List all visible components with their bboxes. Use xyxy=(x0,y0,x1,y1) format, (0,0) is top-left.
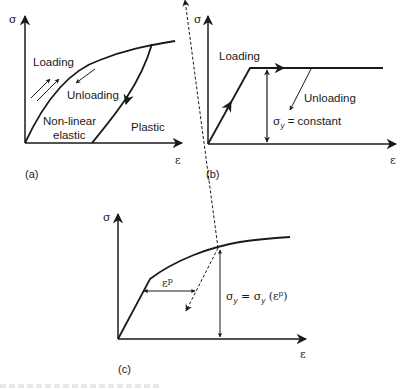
yield-constant-label: σy = constant xyxy=(273,115,342,130)
y-axis-label: σ xyxy=(103,211,111,224)
loading-arrow-2 xyxy=(37,79,59,101)
truncated-caption-strip xyxy=(0,384,160,388)
dashed-unloading-arrow xyxy=(185,0,218,248)
elastic-label: elastic xyxy=(53,129,86,141)
unloading-label: Unloading xyxy=(67,89,119,101)
elastic-arrowhead xyxy=(226,102,231,111)
panel-c: σ ε εp σy = σy (εp) (c) xyxy=(103,0,306,375)
plastic-label: Plastic xyxy=(131,121,165,133)
panel-caption: (c) xyxy=(118,363,131,375)
x-axis-label: ε xyxy=(390,154,396,167)
stress-strain-figure: σ ε Loading Unloading Non-linear elastic… xyxy=(0,0,408,389)
dashed-unloading-line xyxy=(186,248,218,311)
panel-a: σ ε Loading Unloading Non-linear elastic… xyxy=(9,13,182,180)
loading-label: Loading xyxy=(219,50,260,62)
x-axis-label: ε xyxy=(300,348,306,361)
loading-label: Loading xyxy=(33,56,74,68)
y-axis-label: σ xyxy=(9,13,17,26)
y-axis-label: σ xyxy=(194,13,202,26)
non-linear-label: Non-linear xyxy=(43,115,96,127)
plastic-strain-label: εp xyxy=(162,276,173,290)
panel-caption: (a) xyxy=(25,168,38,180)
panel-b: σ ε Loading Unloading σy = constant (b) xyxy=(194,13,396,180)
yield-function-label: σy = σy (εp) xyxy=(226,289,287,305)
loading-arrow-1 xyxy=(31,79,50,98)
panel-caption: (b) xyxy=(206,168,219,180)
unloading-label: Unloading xyxy=(304,92,356,104)
elastic-perfectly-plastic-curve xyxy=(208,68,383,144)
x-axis-label: ε xyxy=(175,154,181,167)
hardening-curve xyxy=(118,237,290,339)
